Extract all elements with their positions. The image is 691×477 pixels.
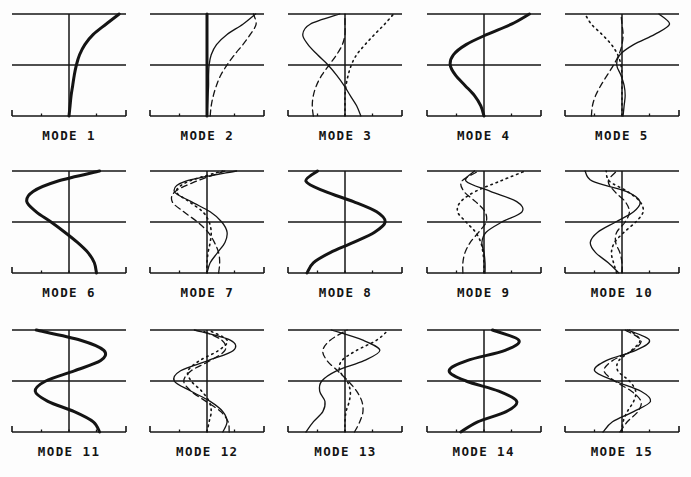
- mode-plot-1: [10, 8, 128, 126]
- mode-label-14: MODE 14: [452, 444, 514, 459]
- mode-plot-5: [563, 8, 681, 126]
- mode-label-13: MODE 13: [314, 444, 376, 459]
- mode-label-4: MODE 4: [457, 128, 511, 143]
- mode-label-5: MODE 5: [595, 128, 649, 143]
- mode-label-11: MODE 11: [38, 444, 100, 459]
- panel-grid: MODE 1MODE 2MODE 3MODE 4MODE 5MODE 6MODE…: [0, 0, 691, 477]
- mode-panel-3: MODE 3: [276, 0, 414, 159]
- mode-label-6: MODE 6: [42, 285, 96, 300]
- mode-panel-12: MODE 12: [138, 318, 276, 477]
- mode-plot-2: [148, 8, 266, 126]
- mode-label-10: MODE 10: [591, 285, 653, 300]
- mode-plot-4: [425, 8, 543, 126]
- mode-label-15: MODE 15: [591, 444, 653, 459]
- mode-plot-6: [10, 165, 128, 283]
- mode-plot-14: [425, 324, 543, 442]
- mode-label-9: MODE 9: [457, 285, 511, 300]
- mode-panel-15: MODE 15: [553, 318, 691, 477]
- mode-plot-9: [425, 165, 543, 283]
- mode-plot-8: [286, 165, 404, 283]
- mode-label-3: MODE 3: [319, 128, 373, 143]
- mode-panel-10: MODE 10: [553, 159, 691, 318]
- mode-panel-6: MODE 6: [0, 159, 138, 318]
- mode-panel-4: MODE 4: [415, 0, 553, 159]
- mode-panel-2: MODE 2: [138, 0, 276, 159]
- mode-plot-10: [563, 165, 681, 283]
- mode-label-1: MODE 1: [42, 128, 96, 143]
- mode-plot-12: [148, 324, 266, 442]
- mode-plot-3: [286, 8, 404, 126]
- mode-panel-13: MODE 13: [276, 318, 414, 477]
- mode-label-7: MODE 7: [181, 285, 235, 300]
- mode-plot-15: [563, 324, 681, 442]
- mode-panel-7: MODE 7: [138, 159, 276, 318]
- mode-plot-11: [10, 324, 128, 442]
- mode-shapes-figure: MODE 1MODE 2MODE 3MODE 4MODE 5MODE 6MODE…: [0, 0, 691, 477]
- mode-panel-1: MODE 1: [0, 0, 138, 159]
- mode-label-8: MODE 8: [319, 285, 373, 300]
- mode-panel-9: MODE 9: [415, 159, 553, 318]
- mode-plot-13: [286, 324, 404, 442]
- mode-panel-11: MODE 11: [0, 318, 138, 477]
- mode-panel-5: MODE 5: [553, 0, 691, 159]
- mode-plot-7: [148, 165, 266, 283]
- mode-panel-14: MODE 14: [415, 318, 553, 477]
- mode-label-12: MODE 12: [176, 444, 238, 459]
- mode-label-2: MODE 2: [181, 128, 235, 143]
- mode-panel-8: MODE 8: [276, 159, 414, 318]
